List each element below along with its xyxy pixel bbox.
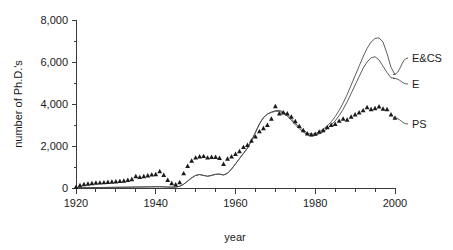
phd-trends-chart: 02,0004,0006,0008,0001920194019601980200… bbox=[0, 0, 453, 250]
data-point bbox=[74, 185, 79, 189]
axes-group: 02,0004,0006,0008,0001920194019601980200… bbox=[40, 14, 407, 209]
data-point bbox=[117, 179, 122, 183]
data-point bbox=[177, 180, 182, 184]
x-tick-label: 1960 bbox=[223, 197, 247, 209]
data-point bbox=[169, 181, 174, 185]
data-point bbox=[90, 181, 95, 185]
data-point bbox=[141, 174, 146, 178]
y-tick-label: 2,000 bbox=[40, 140, 68, 152]
data-point bbox=[373, 106, 378, 110]
data-point bbox=[233, 152, 238, 156]
data-point bbox=[237, 149, 242, 153]
data-point bbox=[98, 180, 103, 184]
data-point bbox=[221, 161, 226, 165]
data-point bbox=[273, 104, 278, 108]
data-point bbox=[94, 180, 99, 184]
data-point bbox=[153, 172, 158, 176]
data-point bbox=[161, 173, 166, 177]
data-point bbox=[365, 105, 370, 109]
x-axis-title: year bbox=[224, 231, 246, 243]
x-tick-label: 1980 bbox=[303, 197, 327, 209]
x-tick-label: 1940 bbox=[144, 197, 168, 209]
data-point bbox=[201, 154, 206, 158]
data-point bbox=[189, 158, 194, 162]
data-point bbox=[269, 116, 274, 120]
data-point bbox=[165, 178, 170, 182]
data-point bbox=[149, 172, 154, 176]
data-point bbox=[361, 108, 366, 112]
series-markers-ps bbox=[74, 104, 398, 189]
data-point bbox=[377, 104, 382, 108]
data-point bbox=[197, 154, 202, 158]
data-point bbox=[213, 155, 218, 159]
data-point bbox=[125, 178, 130, 182]
data-point bbox=[341, 116, 346, 120]
data-point bbox=[157, 169, 162, 173]
x-tick-label: 2000 bbox=[383, 197, 407, 209]
leader-line-e bbox=[393, 78, 408, 84]
data-point bbox=[109, 179, 114, 183]
y-tick-label: 4,000 bbox=[40, 98, 68, 110]
data-point bbox=[181, 171, 186, 175]
data-point bbox=[257, 129, 262, 133]
data-point bbox=[389, 112, 394, 116]
data-point bbox=[102, 180, 107, 184]
data-point bbox=[261, 126, 266, 130]
data-point bbox=[86, 181, 91, 185]
data-point bbox=[106, 180, 111, 184]
data-point bbox=[78, 183, 83, 187]
data-point bbox=[193, 155, 198, 159]
leader-line-ecs bbox=[393, 58, 408, 75]
data-point bbox=[185, 164, 190, 168]
data-point bbox=[217, 156, 222, 160]
series-line-e bbox=[76, 57, 395, 188]
y-tick-label: 6,000 bbox=[40, 56, 68, 68]
series-label-ps: PS bbox=[412, 118, 427, 130]
data-point bbox=[265, 123, 270, 127]
series-label-e: E bbox=[412, 78, 419, 90]
y-axis-title: number of Ph.D.'s bbox=[12, 60, 24, 148]
series-label-ecs: E&CS bbox=[412, 52, 442, 64]
data-point bbox=[113, 179, 118, 183]
data-point bbox=[345, 117, 350, 121]
data-point bbox=[229, 154, 234, 158]
x-tick-label: 1920 bbox=[64, 197, 88, 209]
series-line-ecs bbox=[76, 38, 395, 188]
data-point bbox=[129, 177, 134, 181]
data-point bbox=[133, 174, 138, 178]
chart-page: 02,0004,0006,0008,0001920194019601980200… bbox=[0, 0, 453, 250]
data-point bbox=[317, 129, 322, 133]
series-group bbox=[74, 38, 398, 189]
data-point bbox=[249, 138, 254, 142]
y-tick-label: 0 bbox=[62, 182, 68, 194]
data-point bbox=[385, 107, 390, 111]
y-tick-label: 8,000 bbox=[40, 14, 68, 26]
series-labels-group: E&CSEPS bbox=[393, 52, 442, 130]
data-point bbox=[173, 182, 178, 186]
data-point bbox=[145, 173, 150, 177]
data-point bbox=[209, 155, 214, 159]
data-point bbox=[289, 114, 294, 118]
data-point bbox=[137, 175, 142, 179]
